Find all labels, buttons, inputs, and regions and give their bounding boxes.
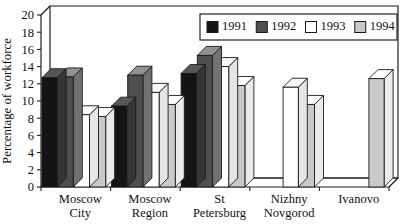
x-category-label: Moscow (128, 192, 171, 206)
x-category-label-line2: Novgorod (264, 206, 315, 220)
bar-front-face (369, 79, 384, 187)
bar-chart: 02468101214161820Percentage of workforce… (0, 0, 405, 224)
bar-side-face (143, 66, 152, 187)
legend-item-1993[interactable]: 1993 (306, 19, 346, 33)
bar-side-face (175, 95, 184, 187)
bar-side-face (229, 58, 238, 187)
y-axis-title-text: Percentage of workforce (0, 38, 14, 164)
axis-depth-edge-top (41, 6, 50, 15)
y-tick-label: 12 (22, 77, 35, 91)
legend-label: 1994 (370, 19, 396, 33)
legend-label: 1992 (271, 19, 296, 33)
x-axis-ticks (41, 187, 389, 191)
y-axis-ticks: 02468101214161820 (22, 8, 42, 194)
y-axis-title: Percentage of workforce (0, 38, 14, 164)
legend-item-1994[interactable]: 1994 (355, 19, 396, 33)
bar-side-face (73, 68, 82, 187)
chart-canvas: 02468101214161820Percentage of workforce… (0, 0, 405, 224)
bar-side-face (384, 70, 393, 187)
y-tick-label: 16 (22, 43, 35, 57)
x-category-label-line2: Region (132, 206, 169, 220)
x-category-label: Nizhny (271, 192, 309, 206)
bar-side-face (57, 69, 66, 187)
bar-side-face (106, 107, 115, 187)
bar-side-face (196, 64, 205, 187)
y-tick-label: 0 (28, 180, 34, 194)
bar-side-face (127, 97, 136, 187)
y-tick-label: 4 (28, 146, 35, 160)
legend-item-1991[interactable]: 1991 (207, 19, 247, 33)
bar-side-face (90, 106, 99, 187)
bar-front-face (42, 78, 57, 187)
legend-swatch (306, 22, 317, 33)
legend-swatch (207, 22, 218, 33)
bar-side-face (298, 78, 307, 187)
legend-swatch (256, 22, 267, 33)
bar-1993-3 (283, 78, 307, 187)
x-category-label-line2: City (70, 206, 92, 220)
y-tick-label: 8 (28, 112, 34, 126)
x-category-label-line2: Petersburg (193, 206, 247, 220)
y-tick-label: 2 (28, 163, 34, 177)
x-category-label: St (214, 192, 225, 206)
legend-label: 1991 (222, 19, 247, 33)
y-tick-label: 18 (22, 26, 35, 40)
x-axis-labels: MoscowCityMoscowRegionStPetersburgNizhny… (59, 192, 379, 220)
x-category-label: Moscow (59, 192, 102, 206)
y-tick-label: 14 (22, 60, 35, 74)
bar-side-face (213, 46, 222, 187)
bar-1991-0 (42, 69, 66, 187)
y-tick-label: 6 (28, 129, 34, 143)
x-category-label: Ivanovo (338, 192, 379, 206)
bar-front-face (283, 87, 298, 187)
legend-item-1992[interactable]: 1992 (256, 19, 296, 33)
y-tick-label: 10 (22, 94, 35, 108)
legend-label: 1993 (321, 19, 346, 33)
bar-side-face (315, 95, 324, 187)
bar-side-face (245, 77, 254, 187)
bar-1994-4 (369, 70, 393, 187)
y-tick-label: 20 (22, 8, 35, 22)
bar-side-face (159, 83, 168, 187)
legend-swatch (355, 22, 366, 33)
legend: 1991199219931994 (200, 14, 397, 40)
